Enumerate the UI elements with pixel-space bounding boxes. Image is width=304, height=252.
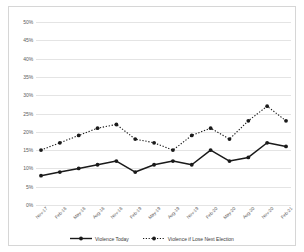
x-axis-tick-label: Aug-19 <box>167 206 181 220</box>
data-point <box>284 119 288 123</box>
data-point <box>265 141 269 145</box>
x-axis-tick-label: Aug-20 <box>242 206 256 220</box>
data-point <box>39 148 43 152</box>
x-axis-tick-label: May-20 <box>223 206 237 220</box>
legend-swatch-dotted-icon <box>143 235 165 242</box>
data-point <box>96 163 100 167</box>
legend-item-violence-today: Violence Today <box>70 235 129 242</box>
x-axis-tick-label: Nov-20 <box>261 206 275 220</box>
y-axis-tick-label: 40% <box>23 56 33 62</box>
data-point <box>77 134 81 138</box>
x-axis-tick-label: Aug-18 <box>91 206 105 220</box>
data-point <box>58 141 62 145</box>
legend-item-violence-if-lose-next-election: Violence if Lose Next Election <box>143 235 234 242</box>
y-axis-tick-label: 0% <box>26 202 33 208</box>
chart-container: 0%5%10%15%20%25%30%35%40%45%50% Nov-17Fe… <box>8 6 296 246</box>
data-point <box>114 123 118 127</box>
data-point <box>171 159 175 163</box>
y-axis-tick-label: 5% <box>26 184 33 190</box>
x-axis-tick-label: Nov-19 <box>186 206 200 220</box>
series-line-2 <box>41 106 286 150</box>
data-point <box>58 170 62 174</box>
y-axis-tick-label: 50% <box>23 19 33 25</box>
data-point <box>133 137 137 141</box>
plot-area: 0%5%10%15%20%25%30%35%40%45%50% <box>36 22 291 205</box>
x-axis-labels: Nov-17Feb-18May-18Aug-18Nov-18Feb-19May-… <box>36 206 291 238</box>
data-point <box>246 119 250 123</box>
y-axis-tick-label: 30% <box>23 92 33 98</box>
data-point <box>265 104 269 108</box>
data-point <box>246 156 250 160</box>
x-axis-tick-label: Nov-17 <box>35 206 49 220</box>
chart-legend: Violence Today Violence if Lose Next Ele… <box>9 235 295 242</box>
data-point <box>133 170 137 174</box>
data-point <box>96 126 100 130</box>
chart-series-layer <box>36 22 291 205</box>
y-axis-tick-label: 35% <box>23 74 33 80</box>
series-line-1 <box>41 143 286 176</box>
x-axis-tick-label: Feb-18 <box>54 206 68 220</box>
y-axis-tick-label: 25% <box>23 111 33 117</box>
y-axis-tick-label: 15% <box>23 147 33 153</box>
x-axis-tick-label: Nov-18 <box>110 206 124 220</box>
data-point <box>171 148 175 152</box>
x-axis-tick-label: Feb-21 <box>280 206 294 220</box>
data-point <box>209 148 213 152</box>
data-point <box>77 167 81 171</box>
data-point <box>152 141 156 145</box>
x-axis-tick-label: Feb-19 <box>129 206 143 220</box>
data-point <box>284 145 288 149</box>
data-point <box>228 159 232 163</box>
x-axis-tick-label: Feb-20 <box>205 206 219 220</box>
data-point <box>190 163 194 167</box>
legend-label: Violence Today <box>95 236 129 242</box>
y-axis-tick-label: 45% <box>23 37 33 43</box>
x-axis-tick-label: May-18 <box>72 206 86 220</box>
x-axis-tick-label: May-19 <box>147 206 161 220</box>
y-axis-tick-label: 10% <box>23 165 33 171</box>
data-point <box>209 126 213 130</box>
data-point <box>114 159 118 163</box>
legend-label: Violence if Lose Next Election <box>168 236 234 242</box>
data-point <box>190 134 194 138</box>
data-point <box>152 163 156 167</box>
data-point <box>228 137 232 141</box>
legend-swatch-solid-icon <box>70 235 92 242</box>
y-axis-tick-label: 20% <box>23 129 33 135</box>
data-point <box>39 174 43 178</box>
